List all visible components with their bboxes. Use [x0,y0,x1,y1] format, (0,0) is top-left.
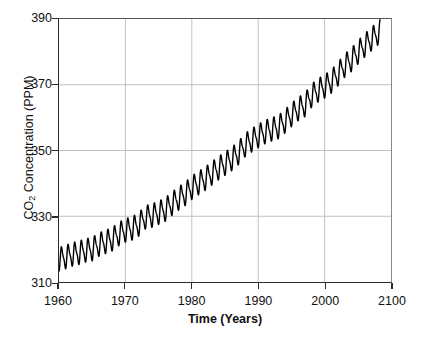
x-tick-mark [325,283,326,289]
y-axis-title-suffix: Concentration (PPM) [22,76,36,196]
y-axis-title: CO2 Concentration (PPM) [22,23,37,273]
y-axis-title-subscript: 2 [27,196,37,201]
x-tick-label: 2000 [311,295,339,308]
chart-figure: 310330350370390 196019701980199020002100… [0,0,432,340]
x-tick-mark [57,283,58,289]
x-tick-mark [391,283,392,289]
x-tick-label: 1960 [44,295,72,308]
co2-curve [59,19,391,282]
plot-area [58,18,392,283]
y-tick-label: 310 [4,277,52,289]
x-tick-label: 1990 [244,295,272,308]
x-tick-mark [124,283,125,289]
x-tick-label: 1970 [111,295,139,308]
series-line-co2 [59,20,380,271]
x-tick-label: 1980 [178,295,206,308]
x-axis-tick-labels: 196019701980199020002100 [58,289,392,307]
x-tick-mark [258,283,259,289]
x-tick-label: 2100 [378,295,406,308]
x-tick-mark [191,283,192,289]
x-axis-title: Time (Years) [58,312,392,326]
y-axis-title-prefix: CO [22,201,36,220]
